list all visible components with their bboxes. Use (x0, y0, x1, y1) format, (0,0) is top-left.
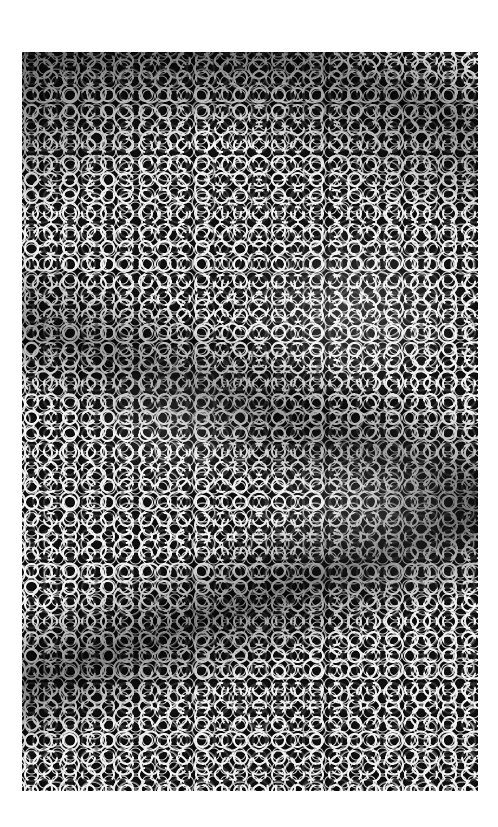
marbled-texture-plate (22, 52, 478, 791)
dark-streaks (22, 52, 478, 791)
